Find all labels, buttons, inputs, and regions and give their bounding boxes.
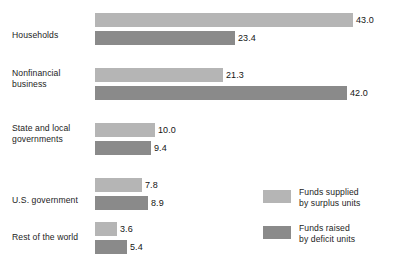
bar-value-label: 5.4	[130, 240, 143, 254]
category-label-line: governments	[12, 134, 92, 145]
legend-label: Funds raisedby deficit units	[299, 223, 355, 244]
bar-value-label: 21.3	[226, 68, 244, 82]
legend-label-line: by surplus units	[299, 198, 360, 209]
bar-value-label: 8.9	[151, 196, 164, 210]
legend-swatch-icon	[263, 226, 291, 239]
category-label: Rest of the world	[12, 232, 92, 243]
legend-item: Funds suppliedby surplus units	[263, 188, 388, 212]
bar-value-label: 10.0	[158, 123, 176, 137]
category-label: Nonfinancialbusiness	[12, 68, 92, 89]
category-label: Households	[12, 30, 92, 41]
category-label-line: business	[12, 79, 92, 90]
bar-supplied	[95, 178, 142, 192]
bar-supplied	[95, 222, 117, 236]
category-label: U.S. government	[12, 195, 92, 206]
legend-label-line: Funds supplied	[299, 187, 360, 198]
legend-swatch-icon	[263, 190, 291, 203]
bar-value-label: 23.4	[238, 31, 256, 45]
bar-value-label: 9.4	[154, 141, 167, 155]
category-label-line: State and local	[12, 123, 92, 134]
bar-supplied	[95, 13, 353, 27]
bar-raised	[95, 31, 235, 45]
bar-value-label: 43.0	[356, 13, 374, 27]
bar-value-label: 7.8	[145, 178, 158, 192]
category-label-line: U.S. government	[12, 195, 92, 206]
category-label-line: Nonfinancial	[12, 68, 92, 79]
bar-supplied	[95, 68, 223, 82]
bar-value-label: 42.0	[350, 86, 368, 100]
bar-chart: Households43.023.4Nonfinancialbusiness21…	[0, 0, 393, 266]
legend-label: Funds suppliedby surplus units	[299, 187, 360, 208]
bar-supplied	[95, 123, 155, 137]
legend-label-line: by deficit units	[299, 234, 355, 245]
bar-raised	[95, 240, 127, 254]
bar-value-label: 3.6	[120, 222, 133, 236]
bar-raised	[95, 141, 151, 155]
legend-item: Funds raisedby deficit units	[263, 224, 388, 248]
category-label-line: Households	[12, 30, 92, 41]
category-label: State and localgovernments	[12, 123, 92, 144]
chart-legend: Funds suppliedby surplus unitsFunds rais…	[263, 188, 388, 260]
bar-raised	[95, 86, 347, 100]
legend-label-line: Funds raised	[299, 223, 355, 234]
bar-raised	[95, 196, 148, 210]
category-label-line: Rest of the world	[12, 232, 92, 243]
